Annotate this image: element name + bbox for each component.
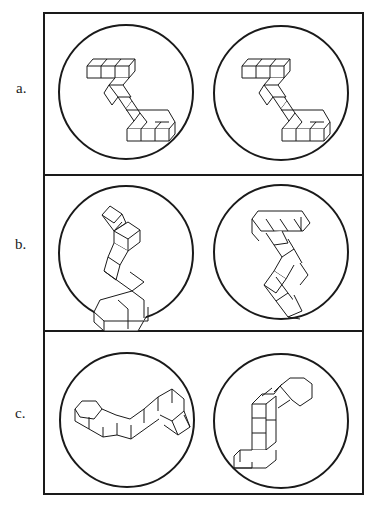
cube-figure-c-right bbox=[234, 378, 312, 468]
figure-canvas bbox=[0, 0, 375, 507]
cube-figure-a-right bbox=[242, 59, 330, 141]
cube-figure-b-right bbox=[252, 211, 310, 319]
cube-figure-a-left bbox=[87, 59, 175, 141]
row-label-b: b. bbox=[15, 236, 26, 253]
cube-figure-b-left bbox=[94, 206, 148, 331]
row-label-a: a. bbox=[16, 80, 26, 97]
row-label-c: c. bbox=[15, 405, 25, 422]
figure-frame bbox=[44, 13, 363, 494]
cube-figure-c-left bbox=[75, 389, 190, 439]
